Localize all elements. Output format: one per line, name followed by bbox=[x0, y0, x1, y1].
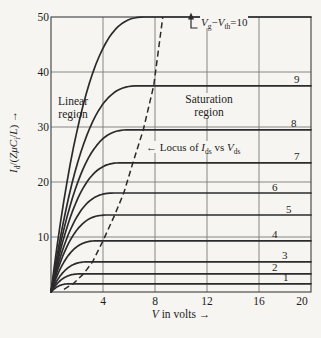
curve-label-1: 1 bbox=[283, 271, 289, 283]
iv-curve-1 bbox=[51, 284, 311, 292]
gate-overdrive-annotation: Vg−Vth=10 bbox=[200, 16, 248, 28]
y-tick-label-20: 20 bbox=[27, 176, 49, 189]
mosfet-iv-characteristics-figure: Id/(ZμCi/L) → V in volts → Linear region… bbox=[0, 0, 321, 338]
x-tick-label-16: 16 bbox=[253, 295, 265, 308]
iv-curve-6 bbox=[51, 193, 311, 292]
curve-label-7: 7 bbox=[294, 150, 300, 162]
saturation-region-line2: region bbox=[185, 106, 232, 119]
iv-plot-canvas bbox=[0, 0, 321, 338]
iv-curve-5 bbox=[51, 215, 311, 292]
linear-region-line2: region bbox=[58, 108, 88, 121]
saturation-region-label: Saturation region bbox=[183, 93, 234, 119]
curve-label-5: 5 bbox=[286, 203, 292, 215]
curve-label-2: 2 bbox=[272, 261, 278, 273]
locus-annotation: ← Locus of Ids vs Vds bbox=[144, 141, 242, 153]
y-axis-title: Id/(ZμCi/L) → bbox=[7, 111, 19, 173]
saturation-region-line1: Saturation bbox=[185, 93, 232, 106]
x-tick-label-12: 12 bbox=[201, 295, 213, 308]
x-tick-label-20: 20 bbox=[296, 295, 308, 308]
x-tick-label-8: 8 bbox=[152, 295, 158, 308]
linear-region-line1: Linear bbox=[58, 95, 88, 108]
y-tick-label-40: 40 bbox=[27, 66, 49, 79]
curve-label-6: 6 bbox=[272, 181, 278, 193]
curve-label-4: 4 bbox=[272, 228, 278, 240]
x-tick-label-4: 4 bbox=[100, 295, 106, 308]
curve-label-3: 3 bbox=[282, 249, 288, 261]
curve-label-8: 8 bbox=[291, 117, 297, 129]
x-axis-title: V in volts → bbox=[152, 308, 210, 320]
linear-region-label: Linear region bbox=[58, 95, 88, 121]
left-arrow-icon: ← bbox=[146, 141, 157, 153]
y-tick-label-30: 30 bbox=[27, 121, 49, 134]
y-tick-label-50: 50 bbox=[27, 11, 49, 24]
up-arrow-head-icon bbox=[188, 13, 194, 20]
locus-dashed-curve bbox=[64, 17, 163, 289]
curve-label-9: 9 bbox=[294, 73, 300, 85]
y-tick-label-10: 10 bbox=[27, 231, 49, 244]
locus-annotation-text: Locus of Ids vs Vds bbox=[157, 141, 240, 153]
